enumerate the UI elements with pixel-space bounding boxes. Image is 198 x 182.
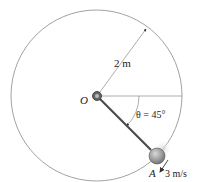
radius-label: 2 m bbox=[114, 57, 131, 69]
angle-label: θ = 45° bbox=[136, 109, 165, 120]
origin-label: O bbox=[80, 94, 88, 106]
pendulum-diagram: 2 m O θ = 45° A 3 m/s bbox=[0, 0, 198, 182]
pendulum-rod bbox=[97, 96, 151, 150]
point-a-label: A bbox=[148, 167, 156, 179]
velocity-label: 3 m/s bbox=[165, 168, 187, 179]
ball-a bbox=[149, 148, 165, 164]
pivot-inner bbox=[95, 94, 99, 98]
